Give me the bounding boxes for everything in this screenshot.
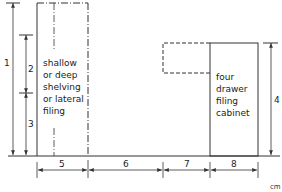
dimension-3-label: 3 [28,119,34,129]
dimension-7-label: 7 [184,159,190,169]
cabinet-label-line-4: cabinet [216,108,250,118]
shelving-label-line-2: or deep [43,70,78,80]
dimension-2-label: 2 [28,64,34,74]
cabinet-label-line-2: drawer [216,84,248,94]
dimension-4-label: 4 [274,95,280,105]
filing-cabinet: four drawer filing cabinet [163,43,258,156]
cabinet-label-line-3: filing [216,96,238,106]
shelving-label-line-5: filing [43,106,65,116]
dimension-5-label: 5 [59,159,65,169]
dimension-6-label: 6 [123,159,129,169]
cabinet-label-line-1: four [216,72,234,82]
shelving-unit: shallow or deep shelving or lateral fili… [37,3,88,156]
dimension-2: 2 [19,35,34,93]
dimension-4: 4 [263,43,280,155]
shelving-label-line-4: or lateral [43,94,84,104]
horizontal-dimensions: 5 6 7 8 [37,159,258,178]
shelving-label-line-3: shelving [43,82,81,92]
units-label: cm [270,183,281,191]
clearance-diagram: 1 2 3 shallow or deep shelving or latera… [0,0,282,192]
dimension-1-label: 1 [4,58,10,68]
dimension-8-label: 8 [231,159,237,169]
dimension-3: 3 [19,93,34,155]
dimension-1: 1 [4,3,20,155]
shelving-label-line-1: shallow [43,58,77,68]
